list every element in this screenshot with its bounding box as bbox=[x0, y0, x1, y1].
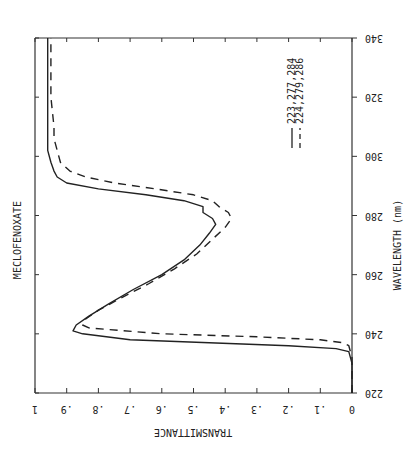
wavelength-tick-label: 240 bbox=[365, 329, 383, 340]
wavelength-tick-label: 300 bbox=[365, 151, 383, 162]
transmittance-axis-label: TRANSMITTANCE bbox=[154, 427, 232, 438]
legend: 223,277,284224,279,286 bbox=[286, 58, 305, 148]
wavelength-axis-label: WAVELENGTH (nm) bbox=[392, 200, 403, 290]
wavelength-tick-label: 340 bbox=[365, 33, 383, 44]
transmittance-tick-label: 0 bbox=[349, 404, 355, 415]
spectrum-curves bbox=[48, 38, 352, 393]
transmittance-tick-label: .4 bbox=[219, 404, 231, 415]
wavelength-tick-label: 220 bbox=[365, 388, 383, 399]
wavelength-tick-label: 320 bbox=[365, 92, 383, 103]
transmittance-tick-label: .9 bbox=[61, 404, 73, 415]
series-dashed-curve bbox=[51, 38, 352, 393]
transmittance-axis: 0.1.2.3.4.5.6.7.8.91 bbox=[32, 38, 355, 415]
wavelength-tick-label: 260 bbox=[365, 270, 383, 281]
transmittance-tick-label: .6 bbox=[156, 404, 168, 415]
chart-title: MECLOFENOXATE bbox=[12, 201, 23, 279]
transmittance-tick-label: .1 bbox=[314, 404, 326, 415]
transmittance-tick-label: .3 bbox=[251, 404, 263, 415]
transmittance-tick-label: .2 bbox=[283, 404, 295, 415]
wavelength-tick-label: 280 bbox=[365, 211, 383, 222]
spectrum-chart: 220240260280300320340 0.1.2.3.4.5.6.7.8.… bbox=[0, 0, 414, 460]
transmittance-tick-label: .5 bbox=[187, 404, 199, 415]
legend-label-dashed: 224,279,286 bbox=[294, 58, 305, 124]
transmittance-tick-label: 1 bbox=[32, 404, 38, 415]
transmittance-tick-label: .8 bbox=[92, 404, 104, 415]
transmittance-tick-label: .7 bbox=[124, 404, 136, 415]
